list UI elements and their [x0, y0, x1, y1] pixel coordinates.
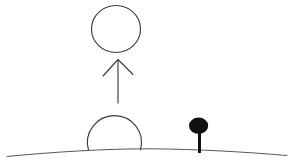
scene-svg — [0, 0, 291, 165]
tree-trunk — [198, 131, 201, 153]
dome — [87, 116, 141, 150]
drawing-canvas — [0, 0, 291, 165]
tree-icon — [189, 118, 208, 154]
ground-line — [7, 149, 287, 157]
floating-circle — [92, 6, 141, 53]
tree-crown — [189, 118, 208, 134]
up-arrow-icon — [103, 60, 133, 104]
